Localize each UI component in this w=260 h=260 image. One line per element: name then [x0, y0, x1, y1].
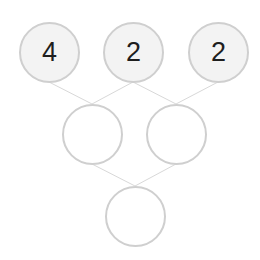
middle-node-1-input[interactable] — [62, 104, 123, 165]
top-node-3: 2 — [188, 22, 249, 83]
node-value: 4 — [42, 37, 57, 68]
connector-line — [133, 82, 176, 104]
top-node-2: 2 — [103, 22, 164, 83]
connector-line — [49, 82, 92, 104]
connector-line — [176, 82, 218, 104]
connector-line — [135, 164, 176, 186]
bottom-node-input[interactable] — [105, 186, 166, 247]
middle-node-2-input[interactable] — [146, 104, 207, 165]
top-node-1: 4 — [19, 22, 80, 83]
connector-line — [92, 164, 135, 186]
connector-line — [92, 82, 133, 104]
node-value: 2 — [126, 37, 141, 68]
node-value: 2 — [211, 37, 226, 68]
